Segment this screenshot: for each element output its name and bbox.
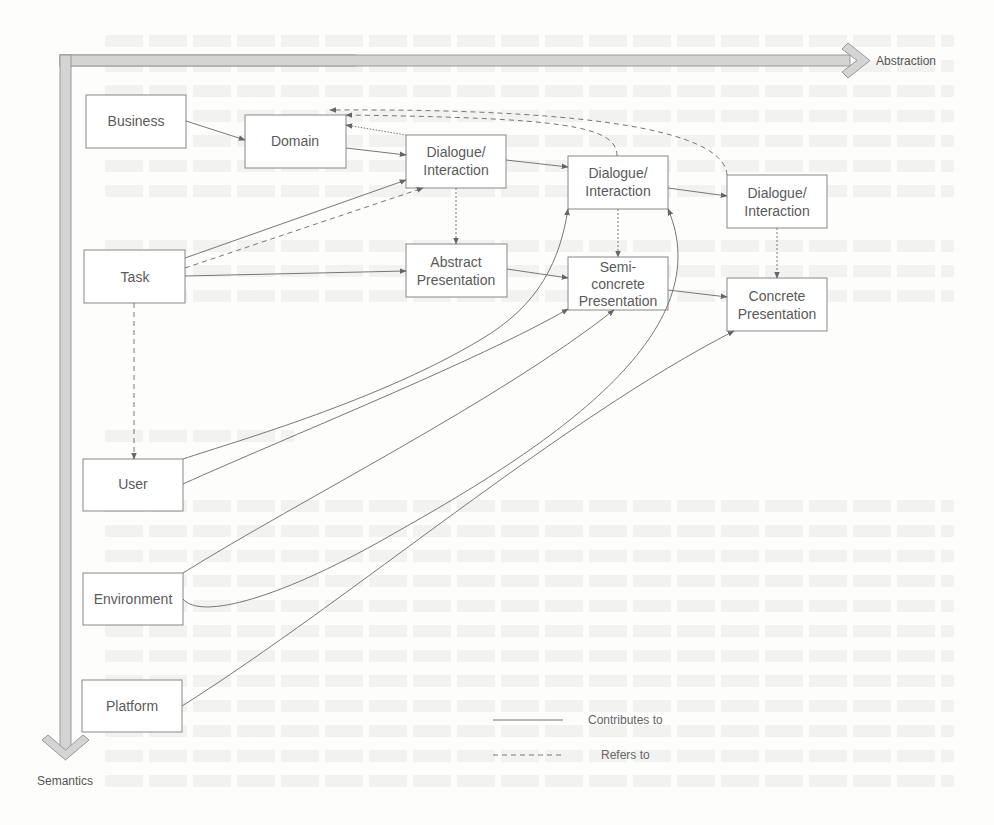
framework-diagram: Abstraction Semantics Business Domain Di…: [0, 0, 994, 825]
node-semiconcrete-label-line3: Presentation: [579, 293, 658, 309]
abstraction-axis-label: Abstraction: [876, 54, 936, 68]
node-dialogue-2-label-line2: Interaction: [585, 183, 650, 199]
node-concrete-label-line1: Concrete: [749, 288, 806, 304]
node-semiconcrete-label-line1: Semi-: [600, 259, 637, 275]
legend: Contributes to Refers to: [493, 713, 663, 762]
node-semiconcrete-label-line2: concrete: [591, 276, 645, 292]
node-abstract-presentation-label-line2: Presentation: [417, 272, 496, 288]
node-environment-label: Environment: [94, 591, 173, 607]
legend-refers-label: Refers to: [601, 748, 650, 762]
node-abstract-presentation-label-line1: Abstract: [430, 254, 481, 270]
node-platform-label: Platform: [106, 698, 158, 714]
semantics-axis-label: Semantics: [37, 774, 93, 788]
node-concrete-presentation: [727, 278, 827, 331]
node-dialogue-1-label-line1: Dialogue/: [426, 144, 485, 160]
node-task-label: Task: [121, 269, 151, 285]
node-domain-label: Domain: [271, 133, 319, 149]
node-business-label: Business: [108, 113, 165, 129]
node-dialogue-2-label-line1: Dialogue/: [588, 165, 647, 181]
abstraction-axis: Abstraction: [60, 43, 936, 78]
node-user-label: User: [118, 476, 148, 492]
node-concrete-label-line2: Presentation: [738, 306, 817, 322]
figure-caption-faint: [40, 800, 45, 822]
node-dialogue-3: [727, 175, 827, 228]
node-dialogue-1-label-line2: Interaction: [423, 162, 488, 178]
node-abstract-presentation: [406, 244, 507, 297]
legend-contributes-label: Contributes to: [588, 713, 663, 727]
node-dialogue-3-label-line2: Interaction: [744, 203, 809, 219]
semantics-axis: Semantics: [37, 55, 93, 788]
node-dialogue-3-label-line1: Dialogue/: [747, 185, 806, 201]
